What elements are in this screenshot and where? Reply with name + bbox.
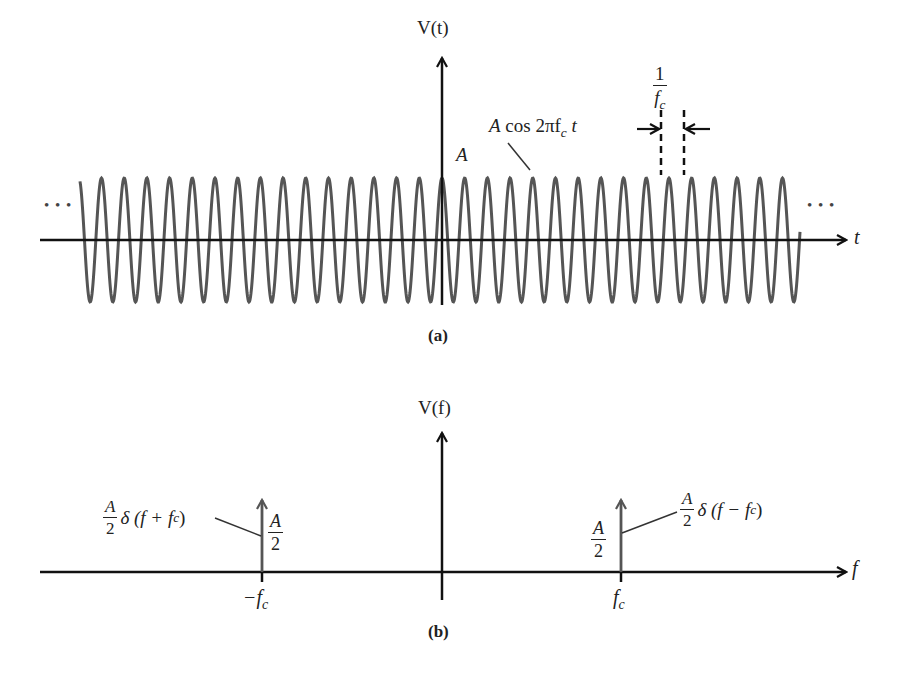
height-label-positive-fc: A 2 <box>591 519 606 560</box>
expr-close-pos: ) <box>756 499 762 521</box>
leader-negative-fc <box>215 518 261 536</box>
y-axis-label-frequency: V(f) <box>418 397 451 419</box>
panel-a <box>40 58 846 305</box>
height-label-negative-fc: A 2 <box>268 512 283 553</box>
ellipsis-left: • • • <box>44 197 72 214</box>
tick-neg-sub: c <box>262 597 268 612</box>
signal-leader-line <box>508 143 530 170</box>
expr-close-neg: ) <box>179 507 185 529</box>
height-num-pos: A <box>591 519 606 540</box>
coef-num-neg: A <box>103 498 117 518</box>
tick-label-positive-fc: fc <box>613 586 625 613</box>
x-axis-label-t: t <box>854 226 860 249</box>
tick-pos-sub: c <box>619 597 625 612</box>
y-axis-label-time: V(t) <box>417 17 449 39</box>
period-denominator-sub: c <box>659 97 665 112</box>
height-den-neg: 2 <box>271 533 280 553</box>
ellipsis-right: • • • <box>807 197 835 214</box>
expr-neg: δ (f + f <box>120 507 173 529</box>
tick-label-negative-fc: −fc <box>243 586 268 613</box>
height-num-neg: A <box>268 512 283 533</box>
vt-label-text: V(t) <box>417 17 449 38</box>
signal-sub: c <box>561 125 567 140</box>
signal-var: t <box>572 115 577 136</box>
annotation-positive-fc: A 2 δ (f − fc) <box>680 490 762 529</box>
peak-amplitude-label: A <box>456 144 468 166</box>
leader-positive-fc <box>622 512 677 533</box>
signal-label: A cos 2πfc t <box>489 115 577 141</box>
period-numerator: 1 <box>653 64 667 86</box>
x-axis-label-f: f <box>852 557 858 580</box>
diagram-canvas <box>0 0 909 676</box>
signal-amplitude: A <box>489 115 501 136</box>
height-den-pos: 2 <box>594 540 603 560</box>
signal-func: cos 2πf <box>505 115 561 136</box>
annotation-negative-fc: A 2 δ (f + fc) <box>103 498 185 537</box>
coef-den-pos: 2 <box>683 510 692 529</box>
caption-a: (a) <box>428 326 448 346</box>
coef-den-neg: 2 <box>106 518 115 537</box>
period-label: 1 fc <box>653 64 667 111</box>
expr-pos: δ (f − f <box>697 499 750 521</box>
tick-neg-text: −f <box>243 586 262 608</box>
coef-num-pos: A <box>680 490 694 510</box>
caption-b: (b) <box>428 622 449 642</box>
